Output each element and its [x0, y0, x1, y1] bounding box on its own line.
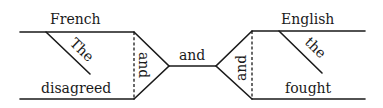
right-subject-word: English	[281, 11, 334, 27]
left-predicate-word: disagreed	[41, 80, 111, 96]
center-conjunction-word: and	[179, 47, 205, 63]
right-predicate-word: fought	[285, 80, 332, 96]
left-modifier-word: The	[67, 35, 97, 65]
left-coordinator-word: and	[136, 52, 152, 78]
left-subject-word: French	[50, 11, 101, 27]
sentence-diagram: French The disagreed and and English the…	[0, 0, 383, 108]
right-coordinator-word: and	[233, 55, 249, 81]
